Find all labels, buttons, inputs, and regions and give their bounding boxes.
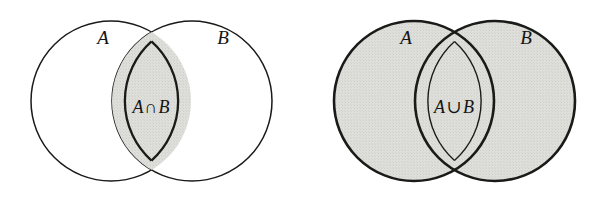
region-label-right-operand: B (159, 97, 170, 117)
region-label-left-operand: A (433, 97, 446, 117)
set-label-b: B (217, 27, 229, 48)
region-label-right-operand: B (463, 97, 474, 117)
region-label-left-operand: A (132, 97, 145, 117)
region-label-union: A∪B (433, 97, 474, 117)
venn-panel-union: A B A∪B (303, 0, 605, 204)
venn-diagram-figure: A B A∩B (0, 0, 605, 204)
venn-panel-intersection: A B A∩B (0, 0, 302, 204)
set-label-a: A (398, 27, 412, 48)
venn-svg-union: A B A∪B (303, 0, 605, 204)
set-label-b: B (520, 27, 532, 48)
intersection-operator-glyph: ∩ (145, 97, 158, 117)
region-label-intersection: A∩B (132, 97, 170, 117)
venn-svg-intersection: A B A∩B (0, 0, 302, 204)
set-label-a: A (95, 27, 109, 48)
union-operator-glyph: ∪ (446, 97, 461, 117)
